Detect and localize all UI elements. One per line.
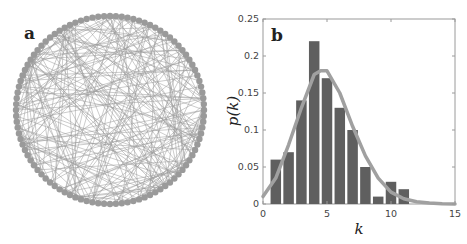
network-node — [194, 72, 200, 78]
network-node — [107, 201, 113, 207]
network-node — [95, 14, 101, 20]
network-node — [107, 13, 113, 19]
network-node — [201, 107, 207, 113]
histogram-bar — [283, 152, 293, 204]
network-node — [136, 17, 142, 23]
histogram-bar — [335, 108, 345, 204]
network-node — [14, 124, 20, 130]
network-node — [200, 119, 206, 125]
figure: a 00.050.10.150.20.25 051015 b k p(k) — [0, 0, 467, 244]
network-node — [13, 113, 19, 119]
network-node — [78, 17, 84, 23]
network-node — [89, 199, 95, 205]
network-node — [199, 124, 205, 130]
network-node — [17, 136, 23, 142]
network-node — [83, 198, 89, 204]
network-node — [101, 201, 107, 207]
network-node — [136, 196, 142, 202]
network-node — [14, 95, 20, 101]
network-node — [200, 95, 206, 101]
network-node — [14, 89, 20, 95]
histogram-bar — [347, 130, 357, 204]
x-tick-label: 0 — [260, 208, 266, 219]
x-tick-label: 15 — [449, 208, 461, 219]
network-node — [130, 16, 136, 22]
network-node — [89, 14, 95, 20]
network-node — [13, 107, 19, 113]
histogram-bar — [322, 78, 332, 204]
x-tick-label: 5 — [324, 208, 330, 219]
x-axis-label: k — [354, 220, 363, 238]
network-node — [141, 194, 147, 200]
network-node — [201, 101, 207, 107]
panel-b: 00.050.10.150.20.25 051015 b k p(k) — [224, 13, 461, 238]
network-node — [113, 13, 119, 19]
network-node — [101, 13, 107, 19]
x-tick-label: 10 — [385, 208, 397, 219]
network-node — [113, 201, 119, 207]
network-node — [13, 101, 19, 107]
network-node — [72, 19, 78, 25]
network-node — [119, 14, 125, 20]
network-node — [199, 89, 205, 95]
network-node — [95, 200, 101, 206]
y-tick-label: 0 — [253, 198, 259, 209]
y-tick-label: 0.25 — [238, 13, 259, 24]
histogram-bar — [309, 41, 319, 204]
panel-b-label: b — [271, 25, 283, 45]
network-node — [19, 141, 25, 147]
network-node — [201, 113, 207, 119]
network-node — [78, 196, 84, 202]
network-node — [198, 83, 204, 89]
histogram-bar — [373, 197, 383, 204]
network-node — [196, 136, 202, 142]
network-node — [14, 119, 20, 125]
network-node — [17, 78, 23, 84]
y-axis-label: p(k) — [224, 96, 242, 127]
y-tick-label: 0.1 — [244, 124, 259, 135]
histogram-bar — [360, 167, 370, 204]
network-node — [16, 83, 22, 89]
panel-a: a — [13, 13, 207, 207]
y-tick-label: 0.05 — [238, 161, 259, 172]
network-node — [124, 199, 130, 205]
network-node — [83, 16, 89, 22]
network-node — [196, 78, 202, 84]
panel-a-label: a — [24, 23, 35, 43]
network-node — [119, 200, 125, 206]
network-node — [130, 198, 136, 204]
network-node — [124, 14, 130, 20]
network-node — [198, 130, 204, 136]
network-node — [16, 130, 22, 136]
y-tick-label: 0.2 — [244, 50, 259, 61]
